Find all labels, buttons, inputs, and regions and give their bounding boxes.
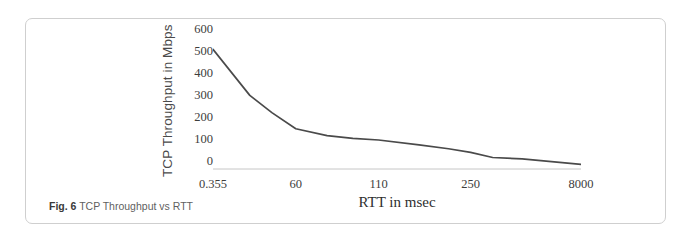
y-axis-tick-label: 300	[179, 89, 213, 101]
y-axis-tick-label: 100	[179, 133, 213, 145]
x-axis-tick-label: 110	[369, 177, 387, 192]
y-axis-tick-label: 0	[179, 155, 213, 167]
y-axis-tick-label: 200	[179, 111, 213, 123]
chart-plot-region: TCP Throughput in Mbps 60050040030020010…	[151, 21, 581, 191]
chart-line-svg	[213, 29, 581, 177]
y-axis-tick-label: 500	[179, 45, 213, 57]
y-axis-tick-label: 600	[179, 23, 213, 35]
y-axis-tick-labels: 6005004003002001000	[179, 29, 213, 174]
figure-caption: Fig. 6 TCP Throughput vs RTT	[49, 200, 193, 212]
x-axis-title: RTT in msec	[213, 194, 581, 211]
y-axis-tick-label: 400	[179, 67, 213, 79]
y-axis-title-label: TCP Throughput in Mbps	[160, 27, 175, 177]
x-axis-tick-label: 250	[461, 177, 480, 192]
y-axis-title: TCP Throughput in Mbps	[148, 0, 166, 29]
x-axis-tick-labels: 0.355601102508000	[213, 177, 581, 193]
x-axis-tick-label: 60	[290, 177, 303, 192]
figure-caption-text: TCP Throughput vs RTT	[79, 200, 193, 212]
x-axis-tick-label: 8000	[569, 177, 594, 192]
figure-card: TCP Throughput in Mbps 60050040030020010…	[25, 18, 666, 224]
figure-caption-label: Fig. 6	[49, 200, 76, 212]
x-axis-tick-label: 0.355	[199, 177, 227, 192]
throughput-data-line	[213, 49, 581, 164]
